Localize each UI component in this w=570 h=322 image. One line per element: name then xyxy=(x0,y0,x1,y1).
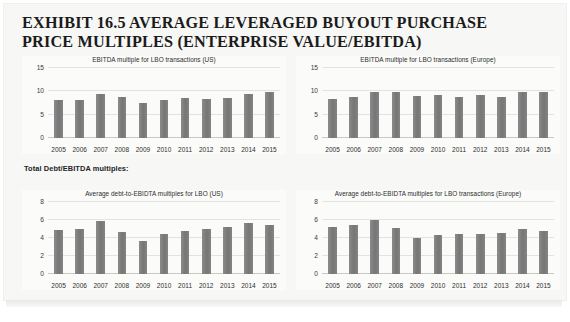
bar-slot xyxy=(153,202,174,274)
bar-slot xyxy=(238,202,259,274)
x-axis-tick-label: 2011 xyxy=(175,282,196,289)
page-title-line-1: EXHIBIT 16.5 AVERAGE LEVERAGED BUYOUT PU… xyxy=(22,14,487,32)
x-axis-tick-label: 2009 xyxy=(406,146,427,153)
plot-area: 02468 xyxy=(48,202,280,274)
y-axis-tick-label: 6 xyxy=(314,216,318,223)
bar-slot xyxy=(69,68,90,138)
bar xyxy=(539,92,548,138)
bar-slot xyxy=(427,202,448,274)
bar xyxy=(392,92,401,138)
bar xyxy=(54,100,63,138)
x-axis-tick-label: 2009 xyxy=(406,282,427,289)
x-axis-labels: 2005200620072008200920102011201220132014… xyxy=(48,146,280,153)
x-axis-tick-label: 2006 xyxy=(343,282,364,289)
y-axis-tick-label: 15 xyxy=(311,64,318,71)
bar-slot xyxy=(90,68,111,138)
plot-area: 051015 xyxy=(322,68,554,138)
bar xyxy=(54,230,63,274)
y-axis-tick-label: 15 xyxy=(37,64,44,71)
bar xyxy=(160,100,169,138)
bar xyxy=(392,228,401,274)
bar-slot xyxy=(322,202,343,274)
y-axis-tick-label: 0 xyxy=(314,134,318,141)
x-axis-tick-label: 2005 xyxy=(48,282,69,289)
bar-slot xyxy=(364,68,385,138)
bar xyxy=(476,234,485,275)
bar-slot xyxy=(238,68,259,138)
x-axis-tick-label: 2015 xyxy=(533,282,554,289)
x-axis-tick-label: 2007 xyxy=(90,282,111,289)
bar xyxy=(118,232,127,274)
bar-slot xyxy=(427,68,448,138)
bar xyxy=(265,92,274,138)
bar-slot xyxy=(259,68,280,138)
y-axis-tick-label: 0 xyxy=(40,270,44,277)
chart-title: Average debt-to-EBIDTA multiples for LBO… xyxy=(22,190,286,197)
x-axis-tick-label: 2010 xyxy=(427,282,448,289)
bar xyxy=(349,225,358,274)
x-axis-tick-label: 2009 xyxy=(132,282,153,289)
bar-slot xyxy=(132,68,153,138)
bar-slot xyxy=(343,202,364,274)
x-axis-tick-label: 2008 xyxy=(111,146,132,153)
bar xyxy=(413,238,422,274)
bar-slot xyxy=(470,202,491,274)
x-axis-tick-label: 2011 xyxy=(449,282,470,289)
x-axis-tick-label: 2005 xyxy=(48,146,69,153)
bar xyxy=(539,231,548,274)
page-title: EXHIBIT 16.5 AVERAGE LEVERAGED BUYOUT PU… xyxy=(22,14,542,52)
bar xyxy=(497,97,506,138)
bar xyxy=(181,98,190,138)
bar-slot xyxy=(364,202,385,274)
y-axis-tick-label: 10 xyxy=(311,87,318,94)
bar-slot xyxy=(111,68,132,138)
x-axis-labels: 2005200620072008200920102011201220132014… xyxy=(322,146,554,153)
bar xyxy=(181,231,190,274)
bar-slot xyxy=(385,68,406,138)
bar xyxy=(75,100,84,138)
bar xyxy=(223,98,232,138)
bar xyxy=(75,229,84,274)
x-axis-labels: 2005200620072008200920102011201220132014… xyxy=(322,282,554,289)
bar-slot xyxy=(449,202,470,274)
x-axis-tick-label: 2013 xyxy=(491,146,512,153)
bar xyxy=(455,234,464,274)
bar xyxy=(328,99,337,138)
x-axis-tick-label: 2012 xyxy=(196,146,217,153)
x-axis-tick-label: 2005 xyxy=(322,282,343,289)
bar xyxy=(96,94,105,138)
x-axis-tick-label: 2006 xyxy=(69,282,90,289)
bar xyxy=(244,223,253,274)
y-axis-tick-label: 4 xyxy=(40,234,44,241)
x-axis-tick-label: 2008 xyxy=(385,282,406,289)
bar xyxy=(455,97,464,138)
x-axis-tick-label: 2012 xyxy=(470,146,491,153)
bar xyxy=(96,221,105,274)
bar-slot xyxy=(69,202,90,274)
exhibit-page: EXHIBIT 16.5 AVERAGE LEVERAGED BUYOUT PU… xyxy=(0,0,570,322)
x-axis-tick-label: 2012 xyxy=(470,282,491,289)
x-axis-tick-label: 2006 xyxy=(343,146,364,153)
bar-slot xyxy=(491,68,512,138)
bar xyxy=(349,97,358,138)
chart-ebitda-multiple-europe: EBITDA multiple for LBO transactions (Eu… xyxy=(296,56,560,154)
x-axis-tick-label: 2010 xyxy=(153,146,174,153)
bar-slot xyxy=(259,202,280,274)
y-axis-tick-label: 6 xyxy=(40,216,44,223)
bar-slot xyxy=(533,202,554,274)
x-axis-tick-label: 2012 xyxy=(196,282,217,289)
bar-slot xyxy=(48,68,69,138)
x-axis-tick-label: 2008 xyxy=(111,282,132,289)
x-axis-tick-label: 2007 xyxy=(364,282,385,289)
chart-debt-ebitda-us: Average debt-to-EBIDTA multiples for LBO… xyxy=(22,190,286,290)
bar-series xyxy=(48,68,280,138)
page-edge-shadow xyxy=(6,300,562,307)
x-axis-tick-label: 2006 xyxy=(69,146,90,153)
x-axis-tick-label: 2015 xyxy=(259,146,280,153)
bar-slot xyxy=(217,68,238,138)
y-axis-tick-label: 8 xyxy=(40,198,44,205)
x-axis-labels: 2005200620072008200920102011201220132014… xyxy=(48,282,280,289)
bar-series xyxy=(322,68,554,138)
y-axis-tick-label: 8 xyxy=(314,198,318,205)
y-axis-tick-label: 10 xyxy=(37,87,44,94)
